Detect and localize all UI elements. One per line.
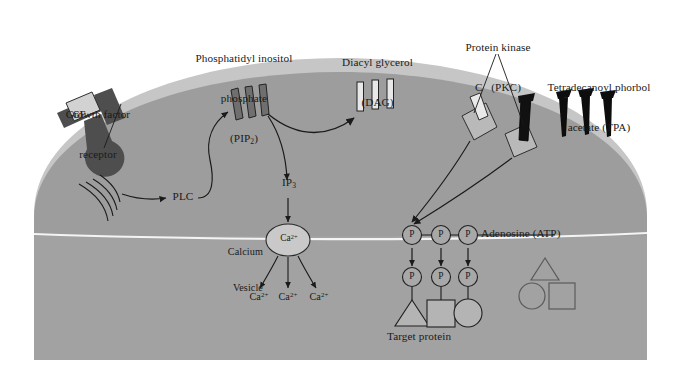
signaling-pathway-figure: Growth factor receptor GF Phosphatidyl i…: [0, 0, 681, 378]
released-calcium-ion-2: Ca2+: [272, 291, 304, 303]
dag-label-line1: Diacyl glycerol: [325, 56, 430, 69]
released-calcium-ion-3: Ca2+: [303, 291, 335, 303]
pip2-label-line1: Phosphatidyl inositol: [180, 52, 308, 65]
tpa-label: Tetradecanoyl phorbol acetate (TPA): [525, 55, 673, 161]
cytosol-lower-region: [34, 236, 647, 360]
dag-label: Diacyl glycerol (DAG): [325, 30, 430, 136]
vesicle-calcium-ion-label: Ca2+: [272, 233, 306, 245]
released-ion-1-text: Ca: [249, 291, 261, 302]
gfr-label-line2: receptor: [38, 148, 158, 161]
pip2-paren-close: ): [254, 132, 258, 144]
pkc-label-line1: Protein kinase: [442, 41, 554, 54]
vesicle-ion-charge: 2+: [291, 233, 298, 240]
phosphate-glyph-bottom-2: P: [434, 271, 448, 282]
ip3-label: IP3: [274, 176, 304, 191]
target-protein-circle: [454, 299, 482, 327]
pip2-label-line3: (PIP2): [180, 132, 308, 147]
gfr-label-line1: Growth factor: [38, 108, 158, 121]
phosphate-glyph-top-3: P: [461, 229, 475, 240]
calcium-vesicle-line1: Calcium: [207, 246, 263, 258]
growth-factor-receptor-label: Growth factor receptor: [38, 82, 158, 188]
released-ion-1-charge: 2+: [261, 291, 269, 298]
tpa-label-line1: Tetradecanoyl phorbol: [525, 81, 673, 94]
released-calcium-ion-1: Ca2+: [243, 291, 275, 303]
released-ion-2-charge: 2+: [290, 291, 298, 298]
phosphate-glyph-bottom-1: P: [405, 271, 419, 282]
ip3-subscript: 3: [292, 181, 296, 190]
phosphate-glyph-top-2: P: [434, 229, 448, 240]
ip3-text: IP: [282, 176, 292, 188]
gf-ligand-label: GF: [66, 110, 92, 121]
phosphate-glyph-top-1: P: [405, 229, 419, 240]
vesicle-ion-text: Ca: [280, 233, 291, 243]
pip2-label: Phosphatidyl inositol phosphate (PIP2): [180, 26, 308, 173]
plc-label: PLC: [168, 190, 198, 203]
target-protein-square: [427, 300, 455, 327]
tpa-label-line2: acetate (TPA): [525, 121, 673, 134]
atp-label: Adenosine (ATP): [481, 227, 591, 240]
released-ion-2-text: Ca: [278, 291, 290, 302]
pip2-paren-open: (PIP: [230, 132, 250, 144]
phosphate-glyph-bottom-3: P: [461, 271, 475, 282]
released-ion-3-charge: 2+: [321, 291, 329, 298]
target-protein-label: Target protein: [387, 330, 487, 343]
dag-label-line2: (DAG): [325, 96, 430, 109]
released-ion-3-text: Ca: [309, 291, 321, 302]
calcium-vesicle-label: Calcium Vesicle: [207, 222, 263, 318]
pip2-label-line2: phosphate: [180, 92, 308, 105]
